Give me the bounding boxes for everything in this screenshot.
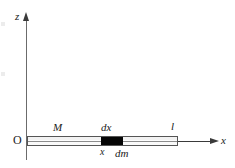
- x-axis-line: [178, 141, 212, 142]
- origin-label: O: [13, 134, 22, 146]
- rod-mass-label: M: [53, 122, 62, 133]
- mass-element-mass-label: dm: [115, 148, 128, 159]
- x-axis-arrowhead-icon: [210, 138, 219, 144]
- mass-element-block: [101, 137, 123, 145]
- z-axis-arrowhead-icon: [23, 12, 29, 21]
- physics-figure-rod-mass-element: z O x M dx l x dm: [0, 0, 235, 168]
- scan-artifact: [1, 72, 5, 76]
- x-axis-label: x: [221, 135, 226, 146]
- z-axis-label: z: [15, 11, 19, 22]
- scan-artifact: [1, 22, 5, 26]
- mass-element-position-label: x: [100, 147, 104, 157]
- rod-length-label: l: [171, 121, 174, 132]
- mass-element-width-label: dx: [101, 122, 111, 133]
- rod-left-end-cap: [27, 136, 28, 146]
